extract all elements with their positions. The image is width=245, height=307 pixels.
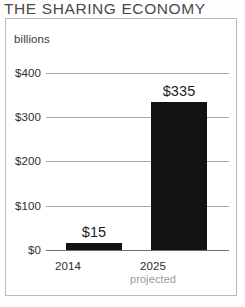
y-tick-label-100: $100 bbox=[1, 200, 41, 212]
plot-area: $15 $335 bbox=[46, 73, 229, 250]
y-tick-label-400: $400 bbox=[1, 67, 41, 79]
bar-2014 bbox=[66, 243, 122, 250]
bar-2025 bbox=[151, 102, 207, 250]
bar-value-2025: $335 bbox=[143, 83, 215, 99]
axis-baseline bbox=[46, 250, 229, 251]
x-tick-2014: 2014 bbox=[30, 259, 106, 273]
chart-figure: THE SHARING ECONOMY billions $400 $300 $… bbox=[0, 0, 245, 307]
bar-value-2014: $15 bbox=[58, 224, 130, 240]
x-tick-2014-label: 2014 bbox=[30, 259, 106, 273]
y-tick-label-0: $0 bbox=[1, 244, 41, 256]
y-tick-label-300: $300 bbox=[1, 111, 41, 123]
gridline-400 bbox=[46, 73, 229, 74]
x-tick-2025-label: 2025 bbox=[115, 259, 191, 273]
axis-unit-label: billions bbox=[14, 32, 50, 46]
page-title: THE SHARING ECONOMY bbox=[4, 0, 242, 18]
x-tick-2025-sublabel: projected bbox=[115, 273, 191, 286]
x-tick-2025: 2025 projected bbox=[115, 259, 191, 286]
y-axis-labels: $400 $300 $200 $100 $0 bbox=[0, 73, 41, 250]
y-tick-label-200: $200 bbox=[1, 155, 41, 167]
